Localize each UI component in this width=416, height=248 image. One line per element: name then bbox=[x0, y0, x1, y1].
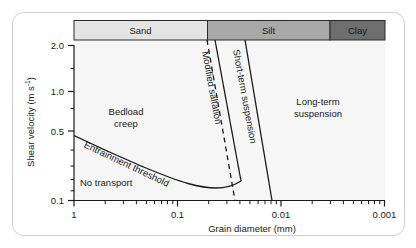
region-label-creep: creep bbox=[114, 118, 138, 129]
region-label-bedload: Bedload bbox=[109, 106, 144, 117]
grain-size-label-silt: Silt bbox=[262, 25, 276, 36]
y-axis-title-suffix: ) bbox=[25, 77, 36, 80]
figure-container: Sand Silt Clay 2.0 1.0 0.5 0.1 bbox=[0, 0, 416, 248]
grain-size-bar: Sand Silt Clay bbox=[74, 21, 385, 41]
x-tick-label-01: 0.1 bbox=[171, 209, 184, 220]
y-axis-title-main: Shear velocity (m s bbox=[25, 86, 36, 167]
y-tick-label-1: 1.0 bbox=[51, 86, 64, 97]
y-tick-label-05: 0.5 bbox=[51, 126, 64, 137]
x-tick-label-001: 0.01 bbox=[272, 209, 291, 220]
y-tick-label-01: 0.1 bbox=[51, 195, 64, 206]
x-axis-title: Grain diameter (mm) bbox=[208, 223, 296, 234]
region-label-long-term: Long-term bbox=[296, 96, 339, 107]
region-label-long-term-suspension: suspension bbox=[294, 108, 342, 119]
grain-transport-chart: Sand Silt Clay 2.0 1.0 0.5 0.1 bbox=[0, 0, 416, 248]
grain-size-label-clay: Clay bbox=[348, 25, 367, 36]
x-tick-label-1: 1 bbox=[71, 209, 76, 220]
y-tick-label-2: 2.0 bbox=[51, 40, 64, 51]
svg-text:Shear velocity (m s-1): Shear velocity (m s-1) bbox=[24, 77, 36, 167]
region-label-no-transport: No transport bbox=[80, 177, 133, 188]
x-tick-label-0001: 0.001 bbox=[373, 209, 397, 220]
grain-size-label-sand: Sand bbox=[129, 25, 151, 36]
y-axis-title: Shear velocity (m s-1) bbox=[24, 77, 36, 167]
